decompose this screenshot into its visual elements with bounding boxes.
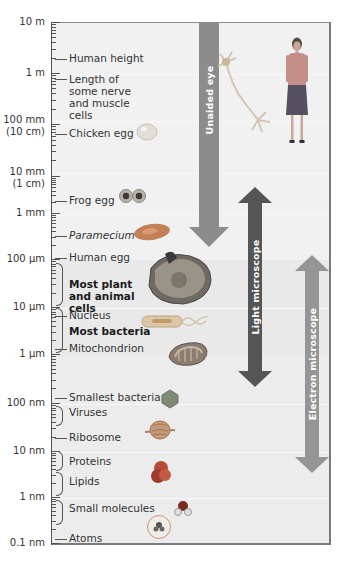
item-chicken-egg: Chicken egg <box>55 127 134 139</box>
axis-label-0-1nm: 0.1 nm <box>10 537 45 548</box>
major-tick <box>51 124 60 125</box>
paramecium-icon <box>133 222 171 242</box>
minor-tick <box>51 151 56 152</box>
minor-tick <box>51 27 56 28</box>
gridline <box>51 404 329 405</box>
minor-tick <box>51 180 56 181</box>
major-tick <box>51 176 60 177</box>
item-small-molecules: Small molecules <box>69 502 155 514</box>
axis-label-10cm: (10 cm) <box>6 126 45 137</box>
minor-tick <box>51 529 56 530</box>
leader-line <box>55 236 67 237</box>
axis-label-10m: 10 m <box>19 16 45 27</box>
axis-label-1m: 1 m <box>26 67 45 78</box>
item-proteins: Proteins <box>69 455 111 467</box>
minor-tick <box>51 388 56 389</box>
small-molecule-icon <box>174 500 192 516</box>
light-microscope-arrow: Light microscope <box>238 187 272 387</box>
item-label: Atoms <box>69 532 102 544</box>
minor-tick <box>51 217 56 218</box>
human-figure-icon <box>282 35 312 147</box>
minor-tick <box>51 187 56 188</box>
brace-lipids <box>56 472 63 496</box>
leader-line <box>55 59 67 60</box>
nerve-cell-icon <box>218 42 278 137</box>
gridline <box>51 452 329 453</box>
item-nerve-muscle-cells: Length of some nerve and muscle cells <box>55 73 165 121</box>
item-atoms: Atoms <box>55 532 102 544</box>
item-human-height: Human height <box>55 52 144 64</box>
item-smallest-bacteria: Smallest bacteria <box>55 391 161 403</box>
axis-label-1nm: 1 nm <box>19 491 45 502</box>
leader-line <box>55 79 67 80</box>
minor-tick <box>51 359 56 360</box>
item-label: Paramecium <box>69 229 135 241</box>
minor-tick <box>51 245 56 246</box>
minor-tick <box>51 362 56 363</box>
item-label: Nucleus <box>69 309 111 321</box>
minor-tick <box>51 42 56 43</box>
leader-line <box>55 539 67 540</box>
frog-egg-icon <box>118 188 148 204</box>
item-label: Ribosome <box>69 431 121 443</box>
item-label: Chicken egg <box>69 127 134 139</box>
minor-tick <box>51 223 56 224</box>
leader-line <box>55 398 67 399</box>
item-nucleus: Nucleus <box>55 309 111 321</box>
atom-icon <box>146 514 172 540</box>
mitochondrion-icon <box>165 337 210 367</box>
major-tick <box>51 403 60 404</box>
smallest-bacteria-icon <box>160 389 180 409</box>
protein-icon <box>150 460 172 484</box>
minor-tick <box>51 182 56 183</box>
axis-label-1um: 1 µm <box>19 348 45 359</box>
gridline <box>51 498 329 499</box>
major-tick <box>51 213 60 214</box>
major-tick <box>51 22 60 23</box>
minor-tick <box>51 215 56 216</box>
minor-tick <box>51 356 56 357</box>
minor-tick <box>51 49 56 50</box>
minor-tick <box>51 33 56 34</box>
major-tick <box>51 497 60 498</box>
axis-label-10um: 10 µm <box>13 301 45 312</box>
item-viruses: Viruses <box>69 406 107 418</box>
minor-tick <box>51 191 56 192</box>
leader-line <box>55 258 67 259</box>
brace-viruses <box>56 406 63 426</box>
item-ribosome: Ribosome <box>55 431 121 443</box>
leader-line <box>55 134 67 135</box>
minor-tick <box>51 30 56 31</box>
chicken-egg-icon <box>136 123 158 141</box>
item-label: Human height <box>69 52 144 64</box>
minor-tick <box>51 160 56 161</box>
bacterium-icon <box>140 312 210 330</box>
axis-label-100mm: 100 mm <box>3 114 45 125</box>
item-label: Length of some nerve and muscle cells <box>69 73 149 121</box>
item-human-egg: Human egg <box>55 251 130 263</box>
axis-label-10nm: 10 nm <box>13 445 45 456</box>
item-mitochondrion: Mitochondrion <box>55 342 144 354</box>
band-molecular <box>51 356 329 545</box>
minor-tick <box>51 178 56 179</box>
major-tick <box>51 354 60 355</box>
minor-tick <box>51 365 56 366</box>
minor-tick <box>51 220 56 221</box>
brace-proteins <box>56 451 63 471</box>
brace-small-molecules <box>56 500 63 525</box>
minor-tick <box>51 140 56 141</box>
axis-label-100nm: 100 nm <box>7 397 45 408</box>
minor-tick <box>51 24 56 25</box>
item-paramecium: Paramecium <box>55 229 135 241</box>
leader-line <box>55 201 67 202</box>
axis-label-1cm: (1 cm) <box>12 178 45 189</box>
electron-microscope-arrow: Electron microscope <box>295 255 329 473</box>
virus-icon <box>143 418 177 442</box>
minor-tick <box>51 184 56 185</box>
plant-animal-cell-icon <box>145 250 215 306</box>
item-frog-egg: Frog egg <box>55 194 115 206</box>
minor-tick <box>51 227 56 228</box>
axis-label-10mm: 10 mm <box>10 166 45 177</box>
brace-plant-animal-cells <box>56 263 63 306</box>
item-label: Mitochondrion <box>69 342 144 354</box>
